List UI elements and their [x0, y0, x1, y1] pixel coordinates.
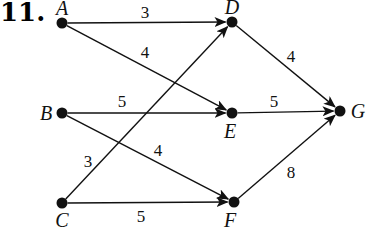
edge-weight-D-G: 4 — [287, 47, 296, 66]
node-E — [227, 108, 238, 119]
node-label-B: B — [40, 102, 52, 124]
node-D — [227, 17, 238, 28]
node-label-D: D — [224, 0, 240, 18]
node-labels: ABCDEFG — [40, 0, 366, 231]
edge-weights: 345435458 — [84, 3, 296, 226]
node-C — [57, 198, 68, 209]
node-F — [229, 197, 240, 208]
node-label-C: C — [55, 209, 69, 231]
edge-weight-F-G: 8 — [287, 163, 296, 182]
node-B — [57, 108, 68, 119]
edge-D-G — [236, 25, 335, 106]
node-A — [57, 18, 68, 29]
edge-weight-E-G: 5 — [270, 92, 279, 111]
edge-A-D — [67, 22, 225, 23]
directed-weighted-graph: 345435458 ABCDEFG — [0, 0, 370, 248]
node-label-F: F — [223, 209, 237, 231]
edge-C-F — [67, 202, 227, 203]
edge-F-G — [238, 115, 335, 198]
edge-weight-B-E: 5 — [118, 92, 127, 111]
node-label-E: E — [223, 120, 236, 142]
edge-E-G — [237, 111, 333, 113]
node-label-A: A — [54, 0, 69, 19]
edge-A-E — [67, 26, 226, 110]
edge-weight-B-F: 4 — [154, 141, 163, 160]
edge-weight-A-E: 4 — [141, 43, 150, 62]
node-label-G: G — [351, 100, 366, 122]
edge-weight-C-D: 3 — [84, 152, 93, 171]
node-G — [335, 106, 346, 117]
edge-weight-A-D: 3 — [141, 3, 150, 22]
edge-weight-C-F: 5 — [137, 207, 146, 226]
